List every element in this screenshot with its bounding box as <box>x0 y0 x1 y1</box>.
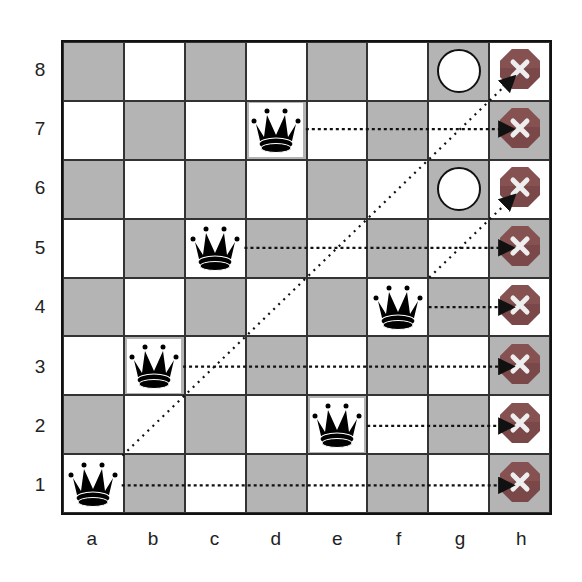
square-f4[interactable] <box>367 278 428 337</box>
blocked-x-icon <box>499 166 541 212</box>
square-b2[interactable] <box>124 395 185 454</box>
square-a5[interactable] <box>63 219 124 278</box>
file-label: a <box>82 528 102 550</box>
square-f6[interactable] <box>367 160 428 219</box>
square-c2[interactable] <box>185 395 246 454</box>
square-e2[interactable] <box>307 395 368 454</box>
square-h2[interactable] <box>489 395 550 454</box>
square-d6[interactable] <box>246 160 307 219</box>
square-b3[interactable] <box>124 336 185 395</box>
queen-icon[interactable] <box>371 280 425 334</box>
square-e5[interactable] <box>307 219 368 278</box>
rank-label: 2 <box>30 415 50 437</box>
rank-label: 4 <box>30 296 50 318</box>
rank-label: 7 <box>30 118 50 140</box>
queen-icon[interactable] <box>127 339 181 393</box>
queen-icon[interactable] <box>249 103 303 157</box>
queen-icon[interactable] <box>310 398 364 452</box>
file-label: c <box>204 528 224 550</box>
square-g1[interactable] <box>428 454 489 513</box>
square-c6[interactable] <box>185 160 246 219</box>
square-c1[interactable] <box>185 454 246 513</box>
blocked-x-icon <box>499 343 541 389</box>
square-h7[interactable] <box>489 101 550 160</box>
file-label: b <box>143 528 163 550</box>
rank-label: 8 <box>30 59 50 81</box>
square-b5[interactable] <box>124 219 185 278</box>
square-h4[interactable] <box>489 278 550 337</box>
square-e7[interactable] <box>307 101 368 160</box>
file-label: h <box>511 528 531 550</box>
square-a3[interactable] <box>63 336 124 395</box>
square-b8[interactable] <box>124 42 185 101</box>
square-b7[interactable] <box>124 101 185 160</box>
square-f5[interactable] <box>367 219 428 278</box>
square-c5[interactable] <box>185 219 246 278</box>
blocked-x-icon <box>499 225 541 271</box>
square-b4[interactable] <box>124 278 185 337</box>
square-a4[interactable] <box>63 278 124 337</box>
square-g3[interactable] <box>428 336 489 395</box>
square-d4[interactable] <box>246 278 307 337</box>
file-label: f <box>389 528 409 550</box>
square-d5[interactable] <box>246 219 307 278</box>
square-a8[interactable] <box>63 42 124 101</box>
queen-icon[interactable] <box>188 221 242 275</box>
square-f3[interactable] <box>367 336 428 395</box>
square-e1[interactable] <box>307 454 368 513</box>
square-c7[interactable] <box>185 101 246 160</box>
rank-label: 6 <box>30 177 50 199</box>
square-h3[interactable] <box>489 336 550 395</box>
square-a2[interactable] <box>63 395 124 454</box>
square-b6[interactable] <box>124 160 185 219</box>
square-h1[interactable] <box>489 454 550 513</box>
square-f8[interactable] <box>367 42 428 101</box>
square-a6[interactable] <box>63 160 124 219</box>
square-d2[interactable] <box>246 395 307 454</box>
file-label: g <box>450 528 470 550</box>
square-a1[interactable] <box>63 454 124 513</box>
blocked-x-icon <box>499 48 541 94</box>
square-a7[interactable] <box>63 101 124 160</box>
rank-label: 1 <box>30 474 50 496</box>
blocked-x-icon <box>499 402 541 448</box>
square-e6[interactable] <box>307 160 368 219</box>
square-g2[interactable] <box>428 395 489 454</box>
square-c4[interactable] <box>185 278 246 337</box>
square-g4[interactable] <box>428 278 489 337</box>
square-d3[interactable] <box>246 336 307 395</box>
square-e4[interactable] <box>307 278 368 337</box>
square-h5[interactable] <box>489 219 550 278</box>
square-c8[interactable] <box>185 42 246 101</box>
square-g5[interactable] <box>428 219 489 278</box>
square-g6[interactable] <box>428 160 489 219</box>
rank-label: 5 <box>30 237 50 259</box>
square-h8[interactable] <box>489 42 550 101</box>
queen-icon[interactable] <box>66 457 120 511</box>
safe-square-circle-icon <box>437 167 481 211</box>
square-g7[interactable] <box>428 101 489 160</box>
square-e8[interactable] <box>307 42 368 101</box>
chess-board <box>61 40 552 515</box>
safe-square-circle-icon <box>437 49 481 93</box>
file-label: d <box>266 528 286 550</box>
blocked-x-icon <box>499 107 541 153</box>
file-label: e <box>327 528 347 550</box>
square-f1[interactable] <box>367 454 428 513</box>
square-f2[interactable] <box>367 395 428 454</box>
square-e3[interactable] <box>307 336 368 395</box>
square-d1[interactable] <box>246 454 307 513</box>
rank-label: 3 <box>30 356 50 378</box>
square-h6[interactable] <box>489 160 550 219</box>
blocked-x-icon <box>499 284 541 330</box>
square-f7[interactable] <box>367 101 428 160</box>
square-b1[interactable] <box>124 454 185 513</box>
square-c3[interactable] <box>185 336 246 395</box>
square-g8[interactable] <box>428 42 489 101</box>
square-d8[interactable] <box>246 42 307 101</box>
blocked-x-icon <box>499 461 541 507</box>
square-d7[interactable] <box>246 101 307 160</box>
